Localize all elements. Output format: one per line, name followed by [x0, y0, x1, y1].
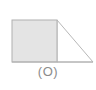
figure-container: (O)	[0, 0, 96, 90]
shaded-square-shape	[12, 20, 57, 62]
right-triangle-shape	[57, 20, 93, 62]
figure-caption-label: (O)	[0, 64, 96, 80]
geometry-diagram	[0, 0, 96, 70]
